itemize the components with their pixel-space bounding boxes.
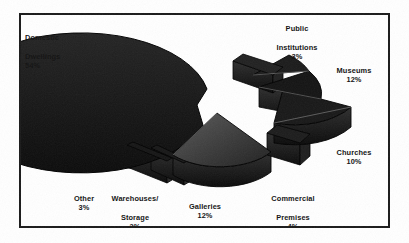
slice-label-domestic-dwellings: Domestic Dwellings 54% (25, 24, 95, 79)
slice-label-line1: Domestic (25, 33, 59, 42)
slice-label-line2: Storage (121, 213, 149, 222)
slice-label-churches: Churches 10% (321, 139, 387, 176)
slice-label-line2: Dwellings (25, 52, 60, 61)
slice-label-line1: Warehouses/ (112, 194, 159, 203)
slice-label-line1: Churches (337, 148, 372, 157)
slice-label-percent: 12% (321, 75, 387, 84)
slice-label-line2: Institutions (276, 43, 317, 52)
pie-chart-plot-area: Domestic Dwellings 54% Public Institutio… (21, 15, 388, 226)
slice-label-percent: 12% (176, 211, 234, 220)
slice-label-percent: 54% (25, 61, 95, 70)
slice-label-warehouses-storage: Warehouses/ Storage 2% (101, 185, 169, 226)
slice-label-percent: 2% (101, 222, 169, 226)
slice-label-museums: Museums 12% (321, 57, 387, 94)
slice-label-line1: Museums (337, 66, 372, 75)
slice-label-line1: Commercial (271, 194, 314, 203)
slice-label-line1: Other (74, 194, 94, 203)
slice-label-commercial-premises: Commercial Premises 4% (256, 185, 330, 226)
chart-frame: Domestic Dwellings 54% Public Institutio… (19, 13, 390, 228)
slice-label-percent: 4% (256, 222, 330, 226)
slice-label-percent: 3% (62, 203, 106, 212)
slice-label-percent: 10% (321, 157, 387, 166)
slice-label-other: Other 3% (62, 185, 106, 222)
slice-label-line2: Premises (276, 213, 310, 222)
slice-label-galleries: Galleries 12% (176, 193, 234, 226)
slice-label-line1: Galleries (189, 202, 221, 211)
slice-label-line1: Public (286, 24, 309, 33)
